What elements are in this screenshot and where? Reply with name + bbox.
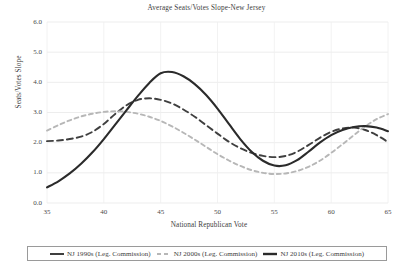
y-tick-label-0: 0.0 xyxy=(20,199,42,207)
y-tick-label-2: 2.0 xyxy=(20,138,42,146)
legend-label-1: NJ 2000s (Leg. Commission) xyxy=(174,250,258,258)
legend-item-1[interactable]: NJ 2000s (Leg. Commission) xyxy=(154,250,261,258)
y-tick-label-1: 1.0 xyxy=(20,168,42,176)
y-tick-label-4: 4.0 xyxy=(20,78,42,86)
x-tick-label-6: 65 xyxy=(376,208,400,216)
x-tick-label-3: 50 xyxy=(206,208,230,216)
legend-item-0[interactable]: NJ 1990s (Leg. Commission) xyxy=(47,250,154,258)
x-tick-label-4: 55 xyxy=(262,208,286,216)
x-tick-label-2: 45 xyxy=(149,208,173,216)
legend-item-2[interactable]: NJ 2010s (Leg. Commission) xyxy=(260,250,367,258)
chart-legend: NJ 1990s (Leg. Commission) NJ 2000s (Leg… xyxy=(27,246,387,261)
plot-area xyxy=(0,0,413,271)
x-tick-label-1: 40 xyxy=(92,208,116,216)
legend-label-0: NJ 1990s (Leg. Commission) xyxy=(67,250,151,258)
legend-label-2: NJ 2010s (Leg. Commission) xyxy=(280,250,364,258)
y-tick-label-3: 3.0 xyxy=(20,108,42,116)
y-tick-label-5: 5.0 xyxy=(20,48,42,56)
x-tick-label-5: 60 xyxy=(319,208,343,216)
chart-figure: Average Seats/Votes Slope-New Jersey Sea… xyxy=(0,0,413,271)
legend-swatch-icon-1 xyxy=(157,250,171,258)
legend-swatch-icon-2 xyxy=(263,250,277,258)
legend-swatch-icon-0 xyxy=(50,250,64,258)
y-tick-label-6: 6.0 xyxy=(20,18,42,26)
x-tick-label-0: 35 xyxy=(35,208,59,216)
